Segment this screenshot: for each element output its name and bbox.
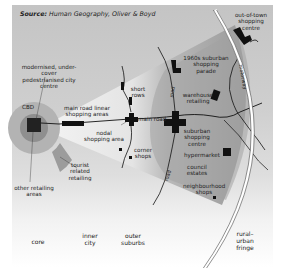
nodal-cross	[129, 113, 134, 126]
label-modernised: modernised, under-cover pedestrianised c…	[19, 64, 79, 90]
label-corner-shops: corner shops	[131, 147, 155, 160]
zone-core: core	[28, 238, 48, 245]
label-other-retailing: other retailing areas	[12, 185, 56, 198]
label-nodal: nodal shopping area	[84, 130, 124, 143]
label-main-road: main road	[138, 116, 166, 122]
zone-rural-urban-fringe: rural– urban fringe	[232, 230, 258, 251]
hypermarket-block	[223, 148, 231, 156]
label-hypermarket: hypermarket	[184, 152, 220, 158]
label-main-road-linear: main road linear shopping areas	[63, 105, 111, 118]
label-out-of-town: out-of-town shopping centre	[234, 12, 268, 31]
label-neighbourhood-shops: neighbourhood shops	[183, 183, 225, 196]
label-warehouse: warehouse retailing	[180, 92, 216, 105]
suburban-centre-cross	[172, 111, 179, 133]
zone-inner-city: inner city	[79, 232, 101, 246]
cbd-block	[27, 118, 41, 132]
label-suburban-centre: suburban shopping centre	[181, 128, 213, 147]
neighbourhood-shop-block	[213, 196, 216, 199]
label-short-rows: short rows	[128, 86, 148, 99]
label-council-estates: council estates	[183, 164, 211, 177]
zone-outer-suburbs: outer suburbs	[118, 232, 148, 246]
label-cbd: CBD	[22, 104, 34, 110]
linear-shopping-block	[62, 121, 84, 126]
source-caption: Source: Human Geography, Oliver & Boyd	[20, 10, 155, 17]
label-tourist: tourist related retailing	[64, 162, 96, 181]
label-parade: 1960s suburban shopping parade	[181, 55, 231, 74]
